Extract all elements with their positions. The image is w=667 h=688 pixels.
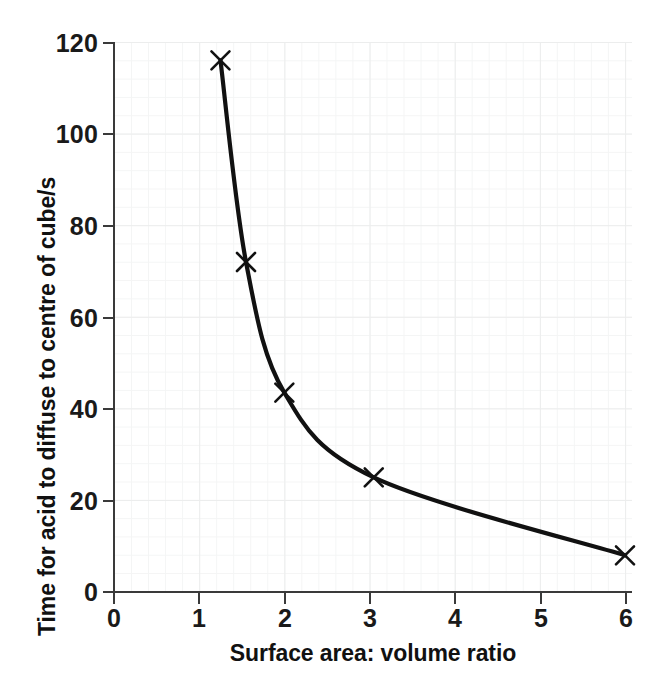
y-axis-tick-100 — [103, 133, 114, 135]
x-axis-tick-5 — [540, 593, 542, 604]
x-axis-line — [113, 591, 632, 593]
y-axis-tick-60 — [103, 317, 114, 319]
y-axis-tick-20 — [103, 500, 114, 502]
x-tick-label-4: 4 — [435, 604, 475, 633]
y-axis-title: Time for acid to diffuse to centre of cu… — [34, 0, 74, 636]
y-axis-tick-80 — [103, 225, 114, 227]
x-tick-label-3: 3 — [350, 604, 390, 633]
x-axis-tick-2 — [284, 593, 286, 604]
x-axis-tick-6 — [625, 593, 627, 604]
x-axis-title: Surface area: volume ratio — [114, 640, 632, 667]
x-axis-tick-4 — [454, 593, 456, 604]
x-tick-label-0: 0 — [94, 604, 134, 633]
x-tick-label-6: 6 — [606, 604, 646, 633]
x-axis-tick-0 — [113, 593, 115, 604]
x-tick-label-2: 2 — [265, 604, 305, 633]
chart-figure: 120 100 80 60 40 20 0 0 1 2 3 4 5 6 Time… — [0, 0, 667, 688]
plot-area-grid — [114, 42, 632, 592]
y-axis-tick-120 — [103, 42, 114, 44]
x-tick-label-1: 1 — [179, 604, 219, 633]
y-axis-tick-40 — [103, 408, 114, 410]
x-axis-tick-3 — [369, 593, 371, 604]
x-tick-label-5: 5 — [521, 604, 561, 633]
x-axis-tick-1 — [198, 593, 200, 604]
